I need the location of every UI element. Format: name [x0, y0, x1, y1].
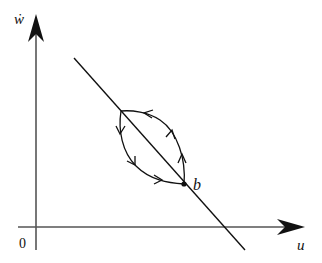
point-b [181, 181, 186, 186]
lower-left-orbit [120, 111, 184, 184]
w-axis-label: ẇ [14, 11, 24, 27]
origin-label: 0 [19, 236, 26, 251]
orbit-arrow-icon [166, 130, 175, 139]
phase-diagram: ẇ u 0 b [0, 0, 322, 263]
u-axis-label: u [297, 237, 305, 253]
point-b-label: b [193, 176, 201, 193]
diagonal-line [74, 58, 245, 250]
